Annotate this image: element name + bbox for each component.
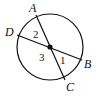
center-point (47, 44, 52, 49)
point-label-c: C (66, 80, 75, 94)
angle-label-2: 2 (33, 28, 39, 40)
angle-label-1: 1 (60, 54, 66, 66)
point-label-d: D (4, 25, 14, 39)
geometry-diagram: A B C D 1 2 3 (0, 0, 100, 109)
point-label-a: A (28, 1, 37, 15)
point-label-b: B (84, 57, 92, 71)
angle-label-3: 3 (39, 51, 45, 63)
